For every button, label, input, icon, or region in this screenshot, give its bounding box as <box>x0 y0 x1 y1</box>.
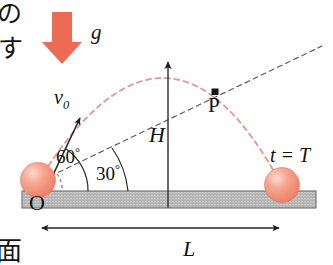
degree-icon: ° <box>115 162 120 176</box>
margin-text-top-1: の <box>0 1 22 26</box>
gravity-arrow <box>42 12 82 64</box>
angle-30-value: 30 <box>96 163 115 184</box>
landing-time-label: t = T <box>270 145 310 165</box>
projectile-motion-figure: g v0 60° 30° H P t = T O L の す 面 <box>0 0 333 265</box>
angle-30-label: 30° <box>96 163 120 183</box>
origin-label: O <box>29 192 45 214</box>
angle-60-value: 60 <box>56 146 75 167</box>
point-p-label: P <box>208 95 220 116</box>
initial-velocity-label: v0 <box>54 87 69 111</box>
v0-base: v <box>54 86 63 108</box>
figure-canvas <box>0 0 333 265</box>
height-label: H <box>149 124 165 146</box>
range-label: L <box>183 238 195 260</box>
margin-text-bottom: 面 <box>0 238 22 264</box>
angle-arc-30-dashed-inner <box>57 174 62 188</box>
v0-subscript: 0 <box>63 98 69 112</box>
degree-icon: ° <box>75 145 80 159</box>
ball-at-landing <box>265 168 300 203</box>
gravity-label: g <box>91 22 102 43</box>
margin-text-top-2: す <box>0 36 23 61</box>
angle-60-label: 60° <box>56 146 80 166</box>
